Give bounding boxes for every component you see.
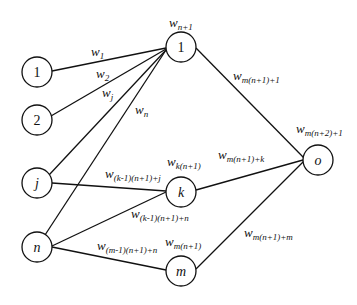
weight-label-w2: w2 <box>96 66 110 83</box>
input-node-2: 2 <box>22 105 52 135</box>
node-label: o <box>315 153 322 168</box>
hidden-node-m: m <box>166 256 196 286</box>
edge-hiddenm-output <box>196 161 304 269</box>
weight-label-hk-to-o: wm(n+1)+k <box>218 147 265 164</box>
neural-network-diagram: 1 2 j n 1 k m o w1 w2 wj wn wn+1 <box>0 0 357 305</box>
input-node-j: j <box>22 168 52 198</box>
weight-label-n-to-m: w(m-1)(n+1)+n <box>97 238 158 255</box>
node-label: 1 <box>178 40 185 55</box>
node-label: m <box>176 264 186 279</box>
weight-label-hiddenk-bias: wk(n+1) <box>167 154 201 171</box>
output-node-o: o <box>303 145 333 175</box>
weight-label-hidden1-bias: wn+1 <box>169 15 193 32</box>
weight-label-h1-to-o: wm(n+1)+1 <box>233 68 280 85</box>
weight-label-hiddenm-bias: wm(n+1) <box>165 234 201 251</box>
hidden-node-1: 1 <box>166 32 196 62</box>
weight-label-j-to-k: w(k-1)(n+1)+j <box>105 166 161 183</box>
node-label: n <box>34 240 41 255</box>
edge-inputj-hidden1 <box>49 50 166 175</box>
hidden-node-k: k <box>166 177 196 207</box>
edge-hiddenk-output <box>196 160 303 190</box>
weight-label-n-to-k: w(k-1)(n+1)+n <box>131 206 189 223</box>
node-label: k <box>178 185 185 200</box>
edge-hidden1-output <box>196 48 304 158</box>
weight-label-output-bias: wm(n+2)+1 <box>296 121 343 138</box>
weight-label-hm-to-o: wm(n+1)+m <box>244 225 293 242</box>
node-label: 2 <box>34 113 41 128</box>
weight-label-wj: wj <box>102 85 114 102</box>
edge-inputj-hiddenk <box>52 183 166 191</box>
input-node-1: 1 <box>22 57 52 87</box>
weight-label-wn: wn <box>135 102 149 119</box>
weight-label-w1: w1 <box>91 44 104 61</box>
node-label: 1 <box>34 65 41 80</box>
input-node-n: n <box>22 232 52 262</box>
